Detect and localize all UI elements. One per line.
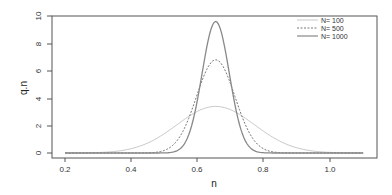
legend-label-n100: N= 100 [321, 17, 344, 24]
x-tick-label: 0.2 [59, 165, 71, 174]
y-axis: 0 2 4 6 8 10 q.n [18, 11, 52, 155]
y-tick-label: 10 [34, 11, 43, 20]
y-tick-label: 8 [34, 41, 43, 46]
curves [65, 21, 363, 153]
density-chart: 0 2 4 6 8 10 q.n 0.2 0.4 0.6 0.8 1.0 n N… [0, 0, 392, 195]
curve-1000 [65, 21, 363, 153]
y-axis-title: q.n [18, 81, 29, 95]
x-tick-label: 0.8 [257, 165, 269, 174]
y-tick-label: 4 [34, 96, 43, 101]
x-tick-label: 1.0 [324, 165, 336, 174]
x-axis: 0.2 0.4 0.6 0.8 1.0 n [59, 158, 336, 189]
legend-label-n1000: N= 1000 [321, 33, 348, 40]
curve-100 [65, 106, 363, 153]
x-axis-title: n [211, 178, 217, 189]
x-tick-label: 0.6 [191, 165, 203, 174]
y-tick-label: 0 [34, 150, 43, 155]
y-tick-label: 6 [34, 68, 43, 73]
x-tick-label: 0.4 [125, 165, 137, 174]
y-tick-label: 2 [34, 123, 43, 128]
legend-label-n500: N= 500 [321, 25, 344, 32]
legend: N= 100 N= 500 N= 1000 [297, 17, 348, 40]
